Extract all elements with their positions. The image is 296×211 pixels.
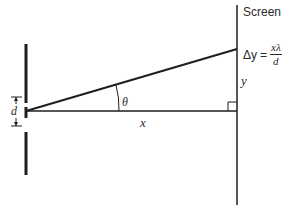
screen-label: Screen (243, 6, 281, 18)
right-angle-marker (228, 102, 237, 111)
y-label: y (241, 74, 247, 87)
double-slit-diagram (0, 0, 296, 211)
d-label: d (11, 105, 17, 117)
d-arrowhead-down-icon (14, 122, 18, 126)
formula-equals: = (260, 49, 267, 61)
diagonal-ray-line (26, 49, 237, 111)
formula-lhs: Δy (243, 49, 257, 61)
theta-label: θ (122, 96, 128, 108)
fringe-spacing-formula: Δy = xλ d (243, 42, 282, 67)
angle-arc (116, 85, 119, 111)
formula-denominator: d (273, 55, 279, 67)
d-arrowhead-up-icon (14, 97, 18, 101)
formula-fraction: xλ d (270, 42, 282, 67)
formula-numerator: xλ (270, 42, 282, 55)
x-label: x (140, 116, 146, 129)
